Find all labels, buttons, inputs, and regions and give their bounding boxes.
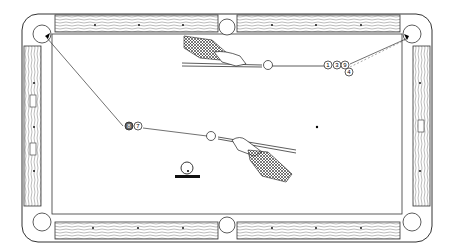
bottom-rail-left [55,222,218,239]
cue-ball-upper [264,61,273,70]
ball-1: 1 [324,61,332,69]
pocket-top-right [403,25,421,43]
ball-4: 4 [345,68,353,76]
ball-8: 8 [125,122,133,130]
pocket-bottom-left [33,213,51,231]
pocket-bottom-middle [219,217,235,233]
right-rail [413,46,430,206]
left-rail [24,46,41,206]
cue-ball-lower [207,132,216,141]
top-rail-right [237,15,400,32]
pocket-top-left [33,25,51,43]
pocket-top-middle [219,19,235,35]
pool-table-illustration: 1 3 9 4 8 7 [0,0,454,252]
bottom-rail-right [237,222,400,239]
ball-3: 3 [333,61,341,69]
table-spot [316,126,318,128]
pocket-bottom-right [403,213,421,231]
ball-7: 7 [134,122,142,130]
top-rail-left [55,15,218,32]
